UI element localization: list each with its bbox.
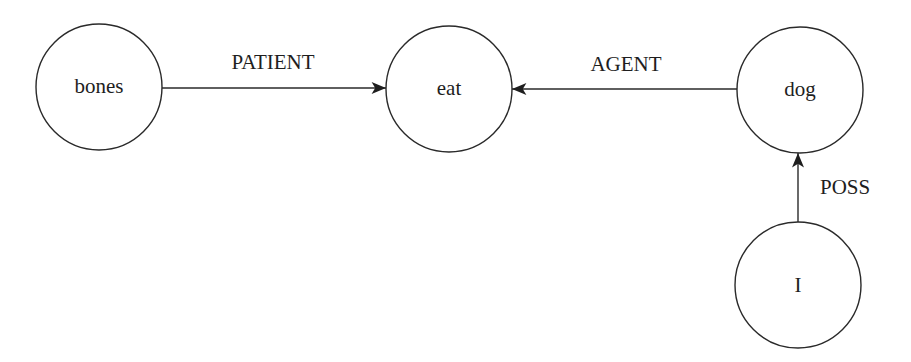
node-eat: eat (386, 26, 512, 152)
node-label-bones: bones (75, 74, 124, 98)
node-bones: bones (36, 24, 162, 150)
edge-i-dog: POSS (798, 153, 870, 223)
edge-dog-eat: AGENT (512, 52, 737, 89)
edge-bones-eat: PATIENT (162, 50, 386, 88)
node-dog: dog (737, 27, 863, 153)
semantic-network-diagram: PATIENT AGENT POSS bones eat dog I (0, 0, 911, 362)
node-label-eat: eat (437, 76, 462, 100)
edge-label-poss: POSS (820, 175, 870, 199)
node-label-dog: dog (784, 77, 816, 101)
edge-label-patient: PATIENT (231, 50, 314, 74)
node-label-i: I (795, 273, 802, 297)
node-i: I (735, 222, 861, 348)
edge-label-agent: AGENT (590, 52, 661, 76)
